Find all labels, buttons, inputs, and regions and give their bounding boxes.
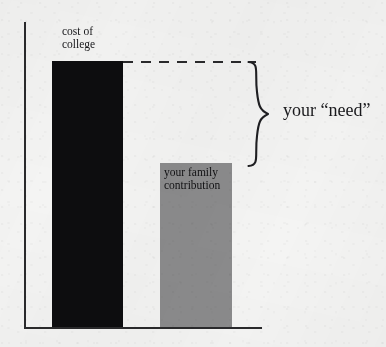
bar-chart-figure: cost of college your family contribution… xyxy=(0,0,386,347)
brace-need-icon xyxy=(246,54,286,174)
label-cost-of-college: cost of college xyxy=(62,25,95,51)
y-axis-line xyxy=(24,22,26,329)
x-axis-line xyxy=(24,327,262,329)
dashed-reference-line xyxy=(123,61,256,63)
bar-cost-of-college xyxy=(52,61,123,327)
label-family-contribution: your family contribution xyxy=(164,166,220,192)
label-your-need: your “need” xyxy=(283,100,370,120)
